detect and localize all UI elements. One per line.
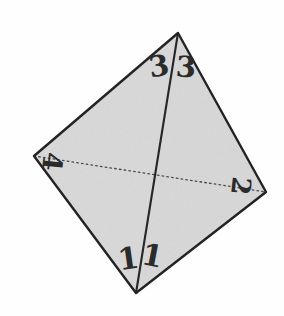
numeral-apex-left: 3	[147, 51, 171, 83]
die-illustration-canvas: 3 3 4 2 1 1	[0, 0, 284, 316]
numeral-left-vertex: 4	[38, 151, 67, 173]
numeral-bottom-right: 1	[139, 239, 165, 272]
numeral-apex-right: 3	[175, 52, 197, 82]
numeral-bottom-left: 1	[116, 243, 141, 276]
numeral-layer: 3 3 4 2 1 1	[0, 0, 284, 316]
numeral-right-vertex: 2	[227, 176, 255, 197]
